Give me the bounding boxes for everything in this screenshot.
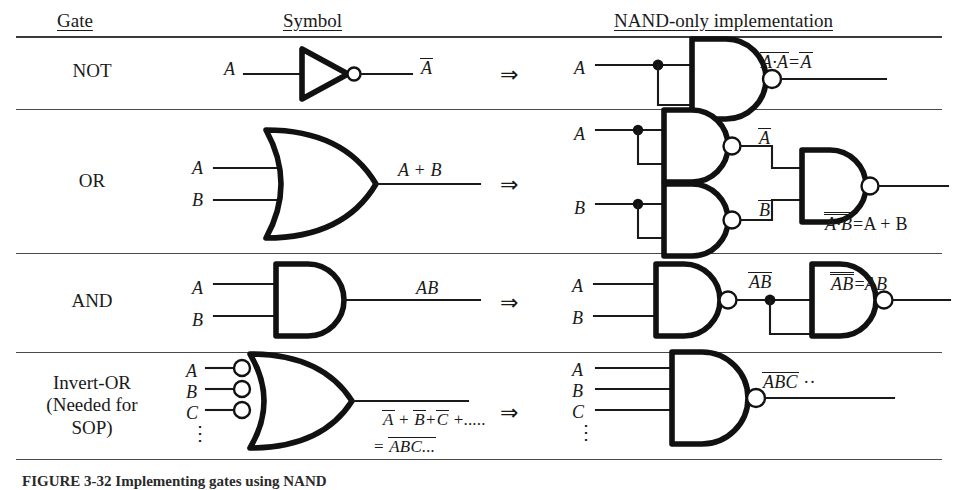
- gate-name-and: AND: [22, 290, 162, 312]
- nand-input-continuation-invert-or: ⋮: [576, 425, 596, 439]
- output-label-or-nand-eq: =: [853, 214, 863, 234]
- output-label-and-nand-bar: AB: [830, 272, 854, 295]
- output-label-and-nand-eq: =: [854, 274, 864, 294]
- implies-arrow-row-not: ⇒: [500, 62, 518, 87]
- input-label-b-or: B: [192, 190, 203, 211]
- nand-input-label-c-invert-or: C: [572, 402, 584, 423]
- input-label-a-or: A: [192, 158, 203, 179]
- gate-name-or: OR: [22, 170, 162, 192]
- output-label-invert-or-nand: ABC ··: [762, 372, 816, 393]
- output-label-and-nand: AB=AB: [830, 272, 887, 295]
- output-label-or-nand-bar: A·B: [824, 212, 853, 235]
- output-line-1-part-a: A: [382, 410, 395, 429]
- intermediate-label-b-bar-or: B: [758, 200, 771, 221]
- or-gate-symbol: [214, 124, 514, 254]
- nand-input-label-b-and: B: [572, 308, 583, 329]
- output-label-not-nand: A·A=A: [760, 52, 813, 73]
- output-label-not-nand-left: A·A: [760, 52, 789, 72]
- implies-arrow-row-or: ⇒: [500, 172, 518, 197]
- gate-name-invert-or: Invert-OR (Needed for SOP): [14, 372, 170, 439]
- intermediate-label-a-bar-or-text: A: [758, 128, 771, 148]
- nand-input-label-b-or: B: [574, 198, 585, 219]
- intermediate-label-b-bar-or-text: B: [758, 200, 771, 220]
- output-label-not-nand-eq: =: [789, 52, 799, 72]
- gate-name-not: NOT: [22, 60, 162, 82]
- intermediate-label-ab-bar-and-text: AB: [748, 272, 772, 292]
- not-nand-implementation: [596, 33, 926, 113]
- output-label-and-nand-right: AB: [865, 274, 887, 294]
- output-line-1-part-c: C: [436, 410, 450, 429]
- and-gate-symbol: [214, 262, 514, 362]
- not-gate-symbol: [244, 36, 474, 112]
- output-line-1-part-b: B: [413, 410, 426, 429]
- output-line-2-invert-or: = ABC...: [374, 437, 436, 457]
- input-label-b-and: B: [192, 310, 203, 331]
- output-label-not-symbol: A: [420, 58, 433, 79]
- nand-input-label-a-invert-or: A: [572, 360, 583, 381]
- implies-arrow-row-invert-or: ⇒: [500, 400, 518, 425]
- output-line-1-invert-or: A + B+C +.....: [382, 410, 486, 430]
- column-header-gate: Gate: [57, 10, 93, 32]
- figure-caption: FIGURE 3-32 Implementing gates using NAN…: [22, 473, 327, 490]
- input-label-a-invert-or: A: [186, 361, 197, 382]
- invert-or-gate-symbol: [206, 356, 506, 461]
- column-header-nand: NAND-only implementation: [614, 10, 833, 32]
- or-nand-implementation: [596, 112, 954, 257]
- output-label-not-symbol-text: A: [420, 58, 433, 78]
- input-label-b-invert-or: B: [186, 382, 197, 403]
- input-label-a-not: A: [224, 59, 235, 80]
- output-label-or-nand-left: A·B: [824, 214, 853, 234]
- nand-input-label-b-invert-or: B: [572, 381, 583, 402]
- intermediate-label-ab-bar-and: AB: [748, 272, 772, 293]
- input-label-a-and: A: [192, 278, 203, 299]
- output-label-invert-or-nand-text: ABC: [762, 372, 799, 392]
- and-nand-implementation: [594, 262, 954, 362]
- input-label-c-invert-or: C: [186, 403, 198, 424]
- output-label-and-nand-left: AB: [830, 274, 854, 294]
- column-header-symbol: Symbol: [283, 10, 342, 32]
- output-label-and-symbol: AB: [416, 278, 438, 299]
- output-label-or-nand: A·B=A + B: [824, 212, 908, 235]
- output-label-or-nand-right: A + B: [863, 214, 907, 234]
- implies-arrow-row-and: ⇒: [500, 290, 518, 315]
- output-line-2-text: ABC...: [388, 437, 436, 456]
- output-label-or-symbol: A + B: [398, 160, 442, 181]
- intermediate-label-a-bar-or: A: [758, 128, 771, 149]
- output-label-not-nand-right: A: [799, 52, 812, 72]
- nand-input-label-a-and: A: [572, 276, 583, 297]
- nand-input-label-a-or: A: [574, 124, 585, 145]
- nand-input-label-a-not: A: [574, 58, 585, 79]
